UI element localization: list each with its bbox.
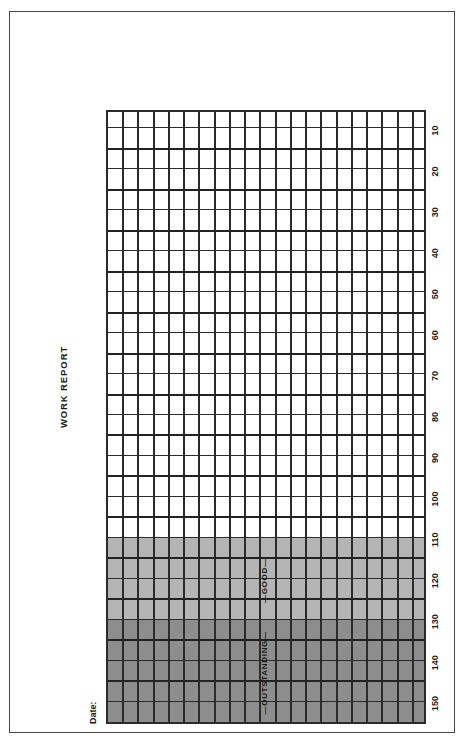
column-rule-major [108, 271, 424, 273]
row-rule [229, 112, 231, 722]
value-axis: 150140130120110100908070605040302010 [430, 110, 452, 724]
axis-tick-20: 20 [430, 151, 440, 192]
chart-area: — OUTSTANDING —— GOOD — [106, 110, 426, 724]
row-rule [366, 112, 368, 722]
page-border: WORK REPORT Date: — OUTSTANDING —— GOOD … [9, 11, 455, 733]
column-rule-minor [108, 455, 424, 456]
axis-tick-100: 100 [430, 478, 440, 519]
row-rule [412, 112, 414, 722]
axis-tick-50: 50 [430, 274, 440, 315]
column-rule-minor [108, 127, 424, 128]
column-rule-minor [108, 291, 424, 292]
band-caption-label: GOOD [260, 567, 269, 594]
column-rule-minor [108, 168, 424, 169]
axis-tick-120: 120 [430, 560, 440, 601]
date-label: Date: [88, 701, 98, 724]
column-rule-minor [108, 496, 424, 497]
band-caption-label: OUTSTANDING [260, 640, 269, 706]
axis-tick-40: 40 [430, 233, 440, 274]
row-rule [122, 112, 124, 722]
band-caption-outstanding: — OUTSTANDING — [260, 628, 269, 718]
column-rule-minor [108, 250, 424, 251]
axis-tick-70: 70 [430, 356, 440, 397]
axis-tick-130: 130 [430, 601, 440, 642]
column-rule-minor [108, 373, 424, 374]
caption-dash-right: — [260, 558, 269, 567]
page-canvas: WORK REPORT Date: — OUTSTANDING —— GOOD … [0, 0, 468, 751]
row-rule [244, 112, 246, 722]
column-rule-major [108, 230, 424, 232]
column-rule-minor [108, 209, 424, 210]
row-rule [381, 112, 383, 722]
work-report-form: WORK REPORT Date: — OUTSTANDING —— GOOD … [44, 42, 444, 732]
row-rule [168, 112, 170, 722]
column-rule-major [108, 353, 424, 355]
axis-tick-10: 10 [430, 110, 440, 151]
row-rule [153, 112, 155, 722]
row-rule [336, 112, 338, 722]
row-rule [183, 112, 185, 722]
axis-tick-150: 150 [430, 683, 440, 724]
column-rule-major [108, 475, 424, 477]
band-caption-good: — GOOD — [260, 536, 269, 626]
axis-tick-110: 110 [430, 519, 440, 560]
column-rule-major [108, 312, 424, 314]
row-rule [275, 112, 277, 722]
column-rule-major [108, 394, 424, 396]
caption-dash-right: — [260, 631, 269, 640]
axis-tick-90: 90 [430, 437, 440, 478]
row-rule [305, 112, 307, 722]
row-rule [351, 112, 353, 722]
row-rule [214, 112, 216, 722]
row-rule [290, 112, 292, 722]
axis-tick-80: 80 [430, 397, 440, 438]
axis-tick-140: 140 [430, 642, 440, 683]
axis-tick-30: 30 [430, 192, 440, 233]
caption-dash-left: — [260, 594, 269, 603]
column-rule-minor [108, 414, 424, 415]
row-rule [397, 112, 399, 722]
axis-tick-60: 60 [430, 315, 440, 356]
row-rule [137, 112, 139, 722]
caption-dash-left: — [260, 706, 269, 715]
column-rule-major [108, 434, 424, 436]
row-rule [320, 112, 322, 722]
column-rule-major [108, 189, 424, 191]
column-rule-minor [108, 332, 424, 333]
column-rule-major [108, 148, 424, 150]
row-rule [198, 112, 200, 722]
column-rule-major [108, 516, 424, 518]
page-title: WORK REPORT [58, 42, 69, 732]
